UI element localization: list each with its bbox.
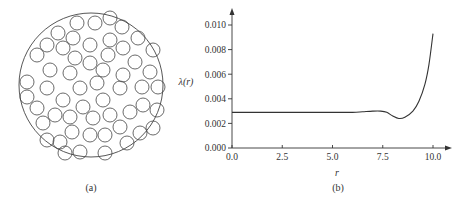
disk [36, 116, 50, 130]
disk [103, 33, 117, 47]
lambda-curve [232, 34, 433, 119]
disk [113, 81, 127, 95]
disk [53, 135, 67, 149]
panel-a-disk-packing: (a) [19, 11, 165, 194]
disk [120, 136, 134, 150]
disk [20, 90, 34, 104]
disk [146, 121, 160, 135]
disk [30, 101, 44, 115]
x-tick-label: 2.5 [276, 152, 288, 162]
panel-b-line-chart: 0.0000.0020.0040.0060.0080.010 0.02.55.0… [178, 8, 452, 194]
y-tick-label: 0.008 [205, 45, 227, 55]
disk [115, 20, 129, 34]
disk [83, 38, 97, 52]
disk [73, 81, 87, 95]
disk [73, 145, 87, 159]
y-tick-label: 0.010 [205, 20, 227, 30]
x-tick-label: 0.0 [226, 152, 238, 162]
disk [20, 75, 34, 89]
x-tick-label: 5.0 [327, 152, 339, 162]
disk [58, 146, 72, 160]
y-tick-label: 0.006 [205, 70, 227, 80]
x-tick-label: 10.0 [425, 152, 442, 162]
panel-label-a: (a) [85, 182, 96, 194]
y-tick-label: 0.004 [205, 94, 227, 104]
disk [68, 51, 82, 65]
disk [131, 31, 145, 45]
disk [63, 110, 77, 124]
x-tick-label: 7.5 [377, 152, 389, 162]
disk [43, 63, 57, 77]
disk [123, 105, 137, 119]
disk [83, 128, 97, 142]
disk [96, 93, 110, 107]
disk [98, 128, 112, 142]
disk [56, 41, 70, 55]
disk [116, 41, 130, 55]
disk [146, 43, 160, 57]
disk [90, 76, 104, 90]
x-axis-arrow-icon [445, 146, 452, 151]
disk [65, 125, 79, 139]
disk [40, 81, 54, 95]
panel-label-b: (b) [332, 182, 344, 194]
disk [51, 26, 65, 40]
y-tick-label: 0.002 [205, 119, 227, 129]
disk [88, 16, 102, 30]
disk [103, 11, 117, 25]
disk [48, 108, 62, 122]
y-axis-label: λ(r) [178, 76, 195, 88]
disk [113, 120, 127, 134]
y-axis-ticks: 0.0000.0020.0040.0060.0080.010 [205, 20, 232, 153]
disk [30, 48, 44, 62]
disk [70, 16, 84, 30]
figure: (a) 0.0000.0020.0040.0060.0080.010 0.02.… [0, 0, 465, 205]
disk [76, 100, 90, 114]
disk [63, 66, 77, 80]
disk [98, 146, 112, 160]
disk [96, 63, 110, 77]
disk [103, 108, 117, 122]
disk [128, 55, 142, 69]
chart-axes [230, 8, 453, 151]
disk [143, 65, 157, 79]
disk [40, 133, 54, 147]
disk [83, 56, 97, 70]
disk [136, 98, 150, 112]
x-axis-label: r [335, 167, 339, 178]
disk [86, 111, 100, 125]
disk [135, 80, 149, 94]
disk [56, 93, 70, 107]
disk [116, 68, 130, 82]
y-tick-label: 0.000 [205, 143, 227, 153]
disk [101, 48, 115, 62]
y-axis-arrow-icon [230, 8, 235, 15]
disk [150, 103, 164, 117]
